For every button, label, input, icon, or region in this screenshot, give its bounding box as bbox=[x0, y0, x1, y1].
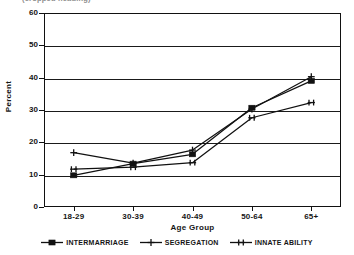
y-tick-60 bbox=[39, 13, 44, 14]
legend-label: INTERMARRIAGE bbox=[66, 239, 128, 246]
x-axis-title: Age Group bbox=[44, 223, 341, 232]
x-tick-18-29 bbox=[74, 207, 75, 211]
x-axis-label-50-64: 50-64 bbox=[222, 212, 282, 221]
y-tick-40 bbox=[39, 78, 44, 79]
chart-legend: INTERMARRIAGESEGREGATIONINNATE ABILITY bbox=[0, 238, 354, 247]
x-axis-label-65+: 65+ bbox=[281, 212, 341, 221]
plot-area bbox=[44, 13, 341, 207]
x-axis-label-30-39: 30-39 bbox=[103, 212, 163, 221]
y-axis-label-60: 60 bbox=[16, 9, 38, 17]
line-chart-figure: (cropped heading) Percent Age Group INTE… bbox=[0, 0, 354, 255]
gridline-30 bbox=[45, 111, 340, 112]
gridline-50 bbox=[45, 46, 340, 47]
y-tick-30 bbox=[39, 110, 44, 111]
legend-entry-intermarriage[interactable]: INTERMARRIAGE bbox=[41, 238, 128, 247]
y-axis-label-10: 10 bbox=[16, 171, 38, 179]
legend-label: SEGREGATION bbox=[165, 239, 219, 246]
legend-label: INNATE ABILITY bbox=[255, 239, 313, 246]
y-tick-0 bbox=[39, 207, 44, 208]
filled-square-marker bbox=[41, 238, 63, 247]
y-axis-label-0: 0 bbox=[16, 203, 38, 211]
y-axis-title: Percent bbox=[4, 67, 13, 127]
cropped-title-strip: (cropped heading) bbox=[22, 0, 192, 7]
x-tick-50-64 bbox=[252, 207, 253, 211]
legend-entry-segregation[interactable]: SEGREGATION bbox=[140, 238, 219, 247]
gridline-10 bbox=[45, 176, 340, 177]
x-axis-label-40-49: 40-49 bbox=[163, 212, 223, 221]
y-axis-label-20: 20 bbox=[16, 138, 38, 146]
y-tick-10 bbox=[39, 175, 44, 176]
x-tick-30-39 bbox=[133, 207, 134, 211]
legend-entry-innate-ability[interactable]: INNATE ABILITY bbox=[230, 238, 313, 247]
y-tick-50 bbox=[39, 45, 44, 46]
y-axis-label-50: 50 bbox=[16, 41, 38, 49]
gridline-20 bbox=[45, 143, 340, 144]
y-axis-label-30: 30 bbox=[16, 106, 38, 114]
gridline-40 bbox=[45, 79, 340, 80]
y-tick-20 bbox=[39, 142, 44, 143]
filled-square-marker-glyph bbox=[49, 240, 55, 245]
cropped-title-text: (cropped heading) bbox=[22, 0, 91, 3]
x-tick-65+ bbox=[311, 207, 312, 211]
plus-marker bbox=[140, 238, 162, 247]
asterisk-marker bbox=[230, 238, 252, 247]
plus-marker-glyph bbox=[147, 239, 154, 246]
y-axis-label-40: 40 bbox=[16, 74, 38, 82]
x-tick-40-49 bbox=[193, 207, 194, 211]
x-axis-label-18-29: 18-29 bbox=[44, 212, 104, 221]
asterisk-marker-glyph bbox=[237, 240, 244, 246]
